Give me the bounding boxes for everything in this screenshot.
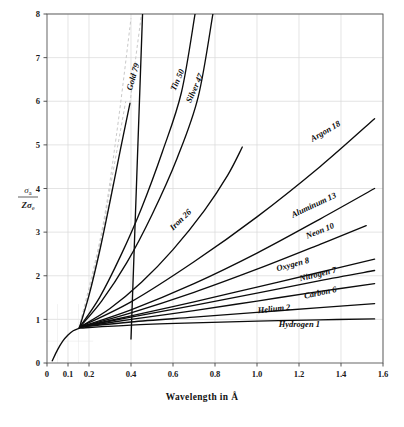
x-tick-label: 1.6 <box>378 369 389 379</box>
y-tick-label: 0 <box>36 358 40 368</box>
y-tick-label: 8 <box>36 9 41 19</box>
y-tick-label: 7 <box>36 53 41 63</box>
x-tick-label: 1.4 <box>336 369 347 379</box>
x-tick-label: 0.2 <box>84 369 95 379</box>
figure-container: 00.10.20.40.60.81.01.21.41.6 012345678 G… <box>0 0 404 427</box>
x-tick-label: 0.1 <box>63 369 74 379</box>
y-tick-label: 5 <box>36 140 40 150</box>
x-tick-label: 0 <box>45 369 49 379</box>
wavelength-absorption-chart: 00.10.20.40.60.81.01.21.41.6 012345678 G… <box>0 0 404 427</box>
y-tick-label: 2 <box>36 271 40 281</box>
series-label-hydrogen-1: Hydrogen 1 <box>278 319 320 329</box>
x-tick-label: 1.0 <box>252 369 263 379</box>
x-tick-label: 0.6 <box>168 369 179 379</box>
y-tick-label: 3 <box>36 227 40 237</box>
y-tick-label: 1 <box>36 315 40 325</box>
x-tick-label: 1.2 <box>294 369 305 379</box>
x-tick-label: 0.8 <box>210 369 221 379</box>
y-tick-label: 4 <box>36 184 41 194</box>
y-tick-label: 6 <box>36 96 41 106</box>
x-axis-title: Wavelength in Å <box>166 391 239 402</box>
x-tick-label: 0.4 <box>126 369 137 379</box>
